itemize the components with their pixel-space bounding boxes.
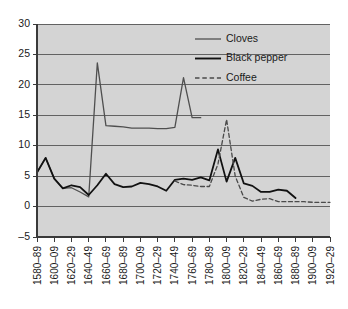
x-tick-label: 1640–49	[83, 246, 94, 285]
y-tick-label: 10	[18, 138, 30, 150]
x-tick-label: 1600–09	[49, 246, 60, 285]
x-tick-label: 1900–09	[307, 246, 318, 285]
y-tick-label: 25	[18, 47, 30, 59]
y-tick-label: 5	[24, 169, 30, 181]
chart-figure: –5051015202530 1580–891600–091620–291640…	[0, 0, 348, 309]
x-tick-label: 1620–29	[66, 246, 77, 285]
line-chart: –5051015202530 1580–891600–091620–291640…	[0, 0, 348, 309]
x-tick-label: 1840–49	[256, 246, 267, 285]
x-tick-label: 1820–29	[238, 246, 249, 285]
x-tick-label: 1680–89	[118, 246, 129, 285]
y-tick-label: 0	[24, 199, 30, 211]
x-tick-label: 1920–29	[325, 246, 336, 285]
x-tick-label: 1800–09	[221, 246, 232, 285]
x-tick-label: 1860–69	[273, 246, 284, 285]
x-tick-label: 1700–09	[135, 246, 146, 285]
x-tick-label: 1720–29	[152, 246, 163, 285]
x-tick-label: 1740–49	[169, 246, 180, 285]
y-tick-label: 30	[18, 17, 30, 29]
y-tick-label: –5	[18, 230, 30, 242]
y-tick-label: 15	[18, 108, 30, 120]
legend-label-cloves: Cloves	[226, 32, 258, 44]
x-tick-label: 1580–89	[32, 246, 43, 285]
y-tick-label: 20	[18, 78, 30, 90]
legend-label-black-pepper: Black pepper	[226, 51, 288, 63]
x-tick-label: 1880–89	[290, 246, 301, 285]
x-tick-label: 1660–69	[101, 246, 112, 285]
legend-label-coffee: Coffee	[226, 71, 257, 83]
x-tick-label: 1760–69	[187, 246, 198, 285]
x-tick-label: 1780–89	[204, 246, 215, 285]
